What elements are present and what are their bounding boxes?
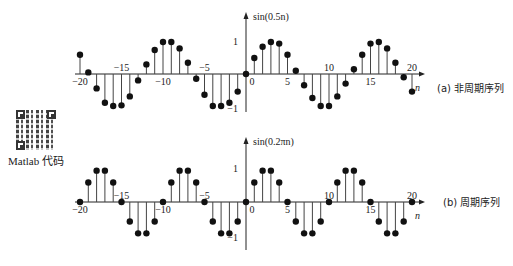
stem-marker: [243, 71, 249, 77]
stem-marker: [152, 47, 158, 53]
stem-marker: [143, 61, 149, 67]
y-axis-label: sin(0.2πn): [253, 136, 294, 148]
stem-marker: [176, 167, 182, 173]
stem-marker: [226, 100, 232, 106]
stem-marker: [201, 92, 207, 98]
stem-marker: [235, 88, 241, 94]
stem-marker: [318, 103, 324, 109]
stem-marker: [160, 199, 166, 205]
stem-marker: [409, 199, 415, 205]
stem-marker: [118, 102, 124, 108]
stem-marker: [127, 218, 133, 224]
stem-marker: [152, 218, 158, 224]
stem-marker: [334, 93, 340, 99]
stem-marker: [342, 80, 348, 86]
stem-marker: [210, 103, 216, 109]
stem-marker: [259, 44, 265, 50]
stem-marker: [384, 45, 390, 51]
stem-marker: [301, 230, 307, 236]
stem-marker: [276, 40, 282, 46]
stem-marker: [251, 179, 257, 185]
stem-marker: [392, 60, 398, 66]
x-tick-label: 5: [285, 204, 290, 215]
y-axis-arrow-icon: [244, 12, 249, 19]
stem-marker: [201, 199, 207, 205]
plot-caption: (b) 周期序列: [443, 196, 500, 208]
y-tick-label: 1: [233, 163, 238, 174]
x-axis-label: n: [415, 210, 420, 221]
stem-marker: [235, 218, 241, 224]
stem-marker: [93, 85, 99, 91]
stem-marker: [185, 60, 191, 66]
stem-marker: [309, 95, 315, 101]
stem-marker: [102, 167, 108, 173]
stem-marker: [160, 39, 166, 45]
x-tick-label: 0: [250, 204, 255, 215]
stem-marker: [334, 179, 340, 185]
stem-charts: sin(0.5n)−11−20−15−10−505101520n(a) 非周期序…: [0, 0, 513, 266]
stem-marker: [301, 82, 307, 88]
stem-marker: [226, 230, 232, 236]
stem-marker: [359, 179, 365, 185]
y-axis-label: sin(0.5n): [253, 11, 289, 23]
x-tick-label: −15: [114, 62, 130, 73]
stem-marker: [259, 167, 265, 173]
stem-marker: [351, 167, 357, 173]
stem-marker: [284, 52, 290, 58]
x-tick-label: −20: [72, 76, 88, 87]
stem-marker: [102, 100, 108, 106]
stem-marker: [118, 199, 124, 205]
x-tick-label: −20: [72, 204, 88, 215]
stem-marker: [367, 40, 373, 46]
x-tick-label: −10: [155, 204, 171, 215]
x-axis-arrow-icon: [419, 72, 425, 77]
stem-marker: [193, 179, 199, 185]
x-tick-label: 15: [366, 204, 376, 215]
stem-marker: [110, 103, 116, 109]
stem-marker: [185, 167, 191, 173]
stem-marker: [326, 199, 332, 205]
stem-marker: [293, 68, 299, 74]
plot-caption: (a) 非周期序列: [437, 82, 504, 94]
stem-marker: [367, 199, 373, 205]
stem-marker: [176, 45, 182, 51]
stem-marker: [93, 167, 99, 173]
stem-marker: [309, 230, 315, 236]
stem-marker: [384, 230, 390, 236]
stem-marker: [409, 88, 415, 94]
stem-marker: [110, 179, 116, 185]
stem-marker: [243, 199, 249, 205]
x-tick-label: 5: [285, 76, 290, 87]
stem-marker: [268, 167, 274, 173]
stem-marker: [143, 230, 149, 236]
x-tick-label: 10: [324, 62, 334, 73]
stem-marker: [193, 76, 199, 82]
stem-marker: [376, 218, 382, 224]
y-tick-label: 1: [233, 36, 238, 47]
stem-marker: [401, 74, 407, 80]
x-tick-label: 20: [407, 62, 417, 73]
stem-marker: [268, 39, 274, 45]
x-tick-label: −10: [155, 76, 171, 87]
x-tick-label: 15: [366, 76, 376, 87]
stem-marker: [401, 218, 407, 224]
stem-marker: [359, 52, 365, 58]
stem-marker: [293, 218, 299, 224]
stem-marker: [284, 199, 290, 205]
stem-marker: [85, 179, 91, 185]
stem-marker: [135, 77, 141, 83]
stem-marker: [168, 179, 174, 185]
stem-marker: [318, 218, 324, 224]
stem-marker: [276, 179, 282, 185]
stem-marker: [376, 39, 382, 45]
x-tick-label: −5: [199, 62, 210, 73]
x-tick-label: 0: [250, 76, 255, 87]
stem-marker: [77, 199, 83, 205]
stem-marker: [135, 230, 141, 236]
stem-marker: [342, 167, 348, 173]
stem-marker: [326, 103, 332, 109]
stem-marker: [218, 103, 224, 109]
stem-marker: [85, 69, 91, 75]
stem-marker: [210, 218, 216, 224]
x-axis-arrow-icon: [419, 200, 425, 205]
